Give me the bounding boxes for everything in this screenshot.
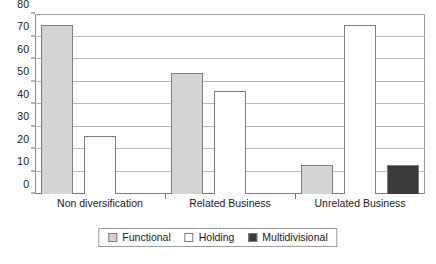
chart-legend: FunctionalHoldingMultidivisional bbox=[98, 228, 337, 247]
x-axis-label: Non diversification bbox=[35, 198, 165, 210]
x-axis-label: Related Business bbox=[165, 198, 295, 210]
y-tick-label-30: 30 bbox=[17, 111, 29, 122]
bar-group bbox=[165, 14, 295, 194]
x-axis-label: Unrelated Business bbox=[295, 198, 425, 210]
bar-holding[interactable] bbox=[344, 25, 376, 194]
bar-group bbox=[35, 14, 165, 194]
bar-multidivisional[interactable] bbox=[387, 165, 419, 194]
legend-item-holding[interactable]: Holding bbox=[185, 232, 235, 243]
legend-item-functional[interactable]: Functional bbox=[108, 232, 170, 243]
y-tick-label-80: 80 bbox=[17, 0, 29, 9]
legend-label: Functional bbox=[122, 232, 170, 243]
bar-slot bbox=[35, 14, 78, 194]
legend-swatch-icon bbox=[248, 233, 257, 242]
legend-swatch-icon bbox=[185, 233, 194, 242]
legend-swatch-icon bbox=[108, 233, 117, 242]
x-axis-labels: Non diversificationRelated BusinessUnrel… bbox=[35, 198, 425, 210]
legend-label: Holding bbox=[199, 232, 235, 243]
y-tick-label-40: 40 bbox=[17, 88, 29, 99]
bar-functional[interactable] bbox=[41, 25, 73, 194]
bar-functional[interactable] bbox=[301, 165, 333, 194]
y-tick-label-0: 0 bbox=[23, 178, 29, 189]
bar-group bbox=[295, 14, 425, 194]
bar-slot bbox=[122, 14, 165, 194]
legend-item-multidivisional[interactable]: Multidivisional bbox=[248, 232, 327, 243]
y-tick-label-50: 50 bbox=[17, 66, 29, 77]
bar-slot bbox=[382, 14, 425, 194]
y-tick-label-70: 70 bbox=[17, 21, 29, 32]
y-tick-label-60: 60 bbox=[17, 43, 29, 54]
bar-functional[interactable] bbox=[171, 73, 203, 195]
bar-slot bbox=[208, 14, 251, 194]
legend-label: Multidivisional bbox=[262, 232, 327, 243]
bar-slot bbox=[295, 14, 338, 194]
bar-holding[interactable] bbox=[214, 91, 246, 195]
bar-slot bbox=[78, 14, 121, 194]
bar-slot bbox=[165, 14, 208, 194]
y-tick-label-20: 20 bbox=[17, 133, 29, 144]
y-tick-label-10: 10 bbox=[17, 156, 29, 167]
bar-groups bbox=[35, 14, 425, 194]
bar-chart: 01020304050607080 Non diversificationRel… bbox=[0, 0, 436, 264]
bar-holding[interactable] bbox=[84, 136, 116, 195]
bar-slot bbox=[252, 14, 295, 194]
bar-slot bbox=[338, 14, 381, 194]
plot-wrapper: 01020304050607080 bbox=[35, 14, 425, 194]
